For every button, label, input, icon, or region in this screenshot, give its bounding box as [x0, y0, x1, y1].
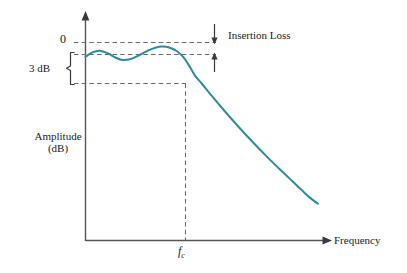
insertion-loss-label: Insertion Loss [228, 29, 291, 41]
three-db-label: 3 dB [29, 62, 50, 74]
y-axis-title: Amplitude (dB) [22, 130, 94, 155]
y-axis-title-line1: Amplitude [34, 130, 81, 142]
cutoff-frequency-label: fc [178, 245, 185, 261]
cutoff-frequency-subscript: c [181, 251, 185, 260]
y-axis-title-line2: (dB) [22, 142, 94, 154]
x-axis-title: Frequency [334, 234, 380, 246]
zero-db-label: 0 [60, 33, 66, 46]
